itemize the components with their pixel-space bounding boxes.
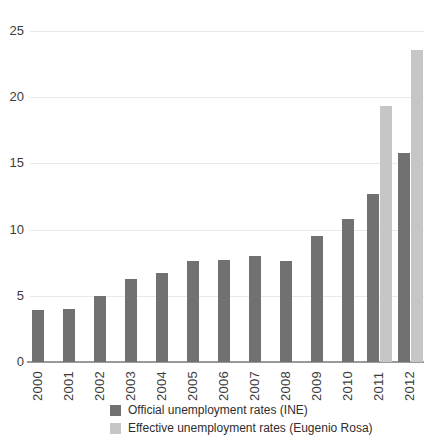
y-tick-5: 5 [0,289,24,303]
x-label-2007: 2007 [247,367,262,401]
legend-label-official: Official unemployment rates (INE) [128,403,308,417]
y-tick-0: 0 [0,355,24,369]
x-label-2011: 2011 [371,367,386,401]
plot-area: 0510152025200020012002200320042005200620… [0,0,431,400]
bar-official-2007 [249,256,261,362]
legend: Official unemployment rates (INE) Effect… [110,401,373,437]
bar-effective-2012 [411,50,423,362]
y-tick-20: 20 [0,90,24,104]
x-label-2008: 2008 [278,367,293,401]
bar-official-2004 [156,273,168,362]
x-label-2000: 2000 [30,367,45,401]
bar-official-2002 [94,296,106,362]
bar-official-2001 [63,309,75,362]
bar-official-2005 [187,261,199,362]
gridline-10 [30,230,424,231]
x-label-2009: 2009 [309,367,324,401]
bar-official-2000 [32,310,44,362]
x-label-2002: 2002 [92,367,107,401]
x-label-2010: 2010 [340,367,355,401]
x-label-2006: 2006 [216,367,231,401]
bar-official-2011 [367,194,379,362]
x-label-2003: 2003 [123,367,138,401]
x-label-2001: 2001 [61,367,76,401]
x-label-2012: 2012 [402,367,417,401]
y-tick-10: 10 [0,223,24,237]
y-tick-15: 15 [0,156,24,170]
y-tick-25: 25 [0,24,24,38]
bar-official-2006 [218,260,230,362]
legend-item-official: Official unemployment rates (INE) [110,401,373,419]
legend-label-effective: Effective unemployment rates (Eugenio Ro… [128,421,373,435]
legend-swatch-effective [110,423,121,434]
bar-official-2012 [398,153,410,362]
bar-official-2009 [311,236,323,362]
x-label-2004: 2004 [154,367,169,401]
gridline-15 [30,163,424,164]
legend-swatch-official [110,405,121,416]
legend-item-effective: Effective unemployment rates (Eugenio Ro… [110,419,373,437]
gridline-20 [30,97,424,98]
bar-effective-2011 [380,106,392,362]
unemployment-bar-chart: 0510152025200020012002200320042005200620… [0,0,431,447]
bar-official-2008 [280,261,292,362]
bar-official-2003 [125,279,137,362]
bar-official-2010 [342,219,354,362]
gridline-25 [30,31,424,32]
x-label-2005: 2005 [185,367,200,401]
